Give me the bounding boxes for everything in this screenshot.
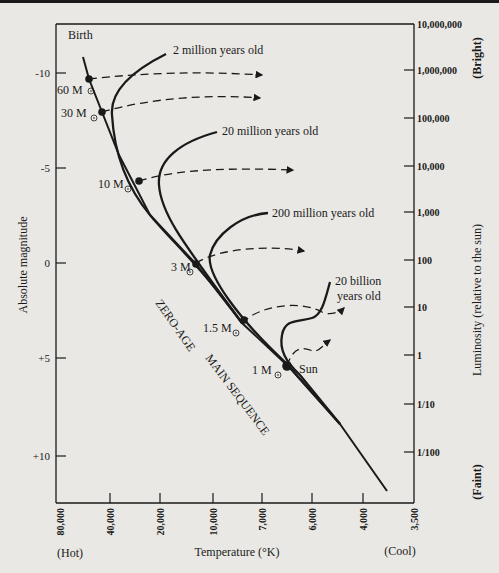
tick-label: 20,000	[155, 508, 166, 536]
tick-label: 40,000	[105, 508, 116, 536]
left-axis-ticks	[56, 73, 66, 456]
star-30-msun	[98, 108, 106, 116]
star-60-msun	[85, 75, 93, 83]
faint-label: (Faint)	[470, 464, 484, 499]
tick-label: 80,000	[55, 508, 66, 536]
tick-label: +10	[33, 450, 51, 462]
x-axis-title: Temperature (°K)	[195, 545, 280, 559]
bright-label: (Bright)	[470, 37, 484, 78]
tick-label: 1/100	[417, 447, 440, 458]
label-20-million: 20 million years old	[222, 124, 318, 138]
star-10-msun	[135, 177, 143, 185]
tick-label: 1,000	[417, 207, 440, 218]
tick-label: 10	[417, 302, 427, 313]
right-axis-labels: 10,000,000 1,000,000 100,000 10,000 1,00…	[417, 19, 462, 458]
tick-label: 1,000,000	[417, 65, 457, 76]
tick-label: 6,000	[307, 508, 318, 531]
tick-label: 10,000,000	[417, 19, 462, 30]
cool-label: (Cool)	[384, 544, 415, 558]
sun-label: Sun	[299, 362, 318, 376]
tick-label: 0	[45, 257, 51, 269]
tick-label: 3,500	[409, 508, 420, 531]
label-10-msun: 10 M	[98, 177, 124, 191]
hot-label: (Hot)	[57, 546, 83, 560]
star-1p5-msun	[240, 316, 248, 324]
right-axis-ticks	[404, 70, 414, 452]
label-30-msun: 30 M	[61, 106, 87, 120]
label-1p5-msun: 1.5 M	[203, 321, 232, 335]
birth-label: Birth	[68, 28, 93, 42]
hr-diagram: -10 -5 0 +5 +10 Absolute magnitude 10,00…	[0, 0, 499, 573]
bottom-axis-ticks	[110, 493, 363, 503]
tick-label: +5	[38, 352, 50, 364]
y-axis-title-left: Absolute magnitude	[16, 217, 30, 314]
label-20-billion-line1: 20 billion	[335, 274, 381, 288]
label-3-msun: 3 M	[171, 260, 191, 274]
tick-label: 7,000	[257, 508, 268, 531]
tick-label: -5	[41, 162, 51, 174]
y-axis-title-right: Luminosity (relative to the sun)	[470, 224, 484, 376]
star-1-msun-sun	[282, 361, 292, 371]
bottom-axis-labels: 80,000 40,000 20,000 10,000 7,000 6,000 …	[55, 508, 420, 536]
tick-label: 10,000	[208, 508, 219, 536]
plot-frame	[56, 24, 414, 503]
left-axis-labels: -10 -5 0 +5 +10	[33, 67, 51, 462]
label-20-billion-line2: years old	[337, 289, 381, 303]
label-1-msun: 1 M	[252, 363, 272, 377]
tick-label: 4,000	[358, 508, 369, 531]
tick-label: 100	[417, 255, 432, 266]
tick-label: 100,000	[417, 113, 450, 124]
label-2-million: 2 million years old	[173, 43, 263, 57]
isochrone-2-million	[112, 54, 242, 323]
tick-label: 1	[417, 350, 422, 361]
label-200-million: 200 million years old	[272, 206, 374, 220]
star-points	[85, 75, 292, 371]
tick-label: 1/10	[417, 399, 435, 410]
label-60-msun: 60 M	[57, 83, 83, 97]
isochrone-20-billion	[281, 282, 340, 424]
zero-age-label: ZERO-AGE	[153, 297, 199, 354]
tick-label: 10,000	[417, 161, 445, 172]
tick-label: -10	[35, 67, 50, 79]
star-3-msun	[192, 260, 200, 268]
